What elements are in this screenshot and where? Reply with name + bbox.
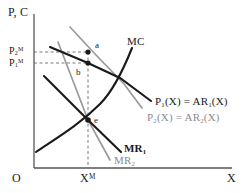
curve-mr1 xyxy=(44,76,121,152)
tick-p1m-sup: M xyxy=(18,58,24,64)
curve-label-ar1: P1(X) = AR1(X) xyxy=(155,96,228,108)
tick-label-p1m: P1M xyxy=(9,58,24,69)
origin-label: O xyxy=(12,172,21,184)
economics-diagram: P, C X O P2M P1M XM a b e MC P1(X) = AR1… xyxy=(0,0,243,193)
ar1-tail: (X) xyxy=(212,95,228,107)
point-a-marker xyxy=(85,49,90,54)
curve-label-mc: MC xyxy=(127,36,145,47)
tick-label-p2m: P2M xyxy=(9,46,24,57)
point-e-marker xyxy=(85,117,91,123)
y-axis-label: P, C xyxy=(8,6,28,18)
curve-ar1 xyxy=(50,47,151,101)
point-label-b: b xyxy=(76,68,81,77)
curve-label-ar2: P2(X) = AR2(X) xyxy=(147,112,220,124)
point-label-a: a xyxy=(95,41,99,50)
point-label-e: e xyxy=(94,116,98,125)
mr2-base: MR xyxy=(114,154,132,166)
tick-label-xm: XM xyxy=(80,172,95,184)
ar1-mid: (X) = AR xyxy=(165,95,208,107)
tick-xm-base: X xyxy=(80,171,89,185)
mr1-base: MR xyxy=(124,142,143,154)
ar2-mid: (X) = AR xyxy=(157,111,200,123)
mr2-sub: 2 xyxy=(132,160,136,167)
tick-xm-sup: M xyxy=(89,173,96,181)
curve-label-mr2: MR2 xyxy=(114,155,135,167)
ar2-tail: (X) xyxy=(204,111,220,123)
x-axis-label: X xyxy=(227,172,236,184)
mr1-sub: 1 xyxy=(143,148,147,155)
curve-mc xyxy=(36,48,132,152)
tick-p2m-sup: M xyxy=(18,46,24,52)
point-b-marker xyxy=(85,60,90,65)
